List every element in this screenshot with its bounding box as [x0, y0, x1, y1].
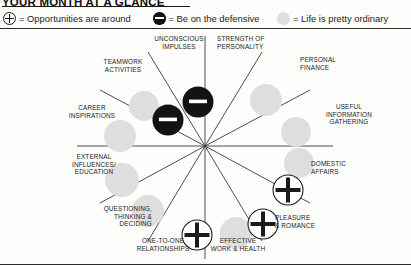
legend-item-defensive: = Be on the defensive — [153, 12, 259, 25]
legend-item-opportunities: = Opportunities are around — [3, 12, 131, 25]
opportunity-pleasure-and-romance — [248, 209, 278, 239]
filled-circle-bar-icon — [153, 12, 166, 25]
sector-label-effective-work-and-health: EFFECTIVE WORK & HEALTH — [203, 237, 273, 252]
legend-label-opportunities: = Opportunities are around — [19, 13, 131, 24]
grey-disc-icon — [277, 12, 290, 25]
sector-label-personal-finance: PERSONAL FINANCE — [300, 56, 364, 71]
disc-career-inspirations — [104, 120, 136, 152]
circled-plus-icon — [3, 12, 16, 25]
sector-label-strength-of-personality: STRENGTH OF PERSONALITY — [217, 35, 283, 50]
sector-label-pleasure-and-romance: PLEASURE & ROMANCE — [275, 214, 341, 229]
month-at-a-glance-wheel: TEAMWORK ACTIVITIES UNCONSCIOUS IMPULSES… — [0, 28, 411, 265]
legend-item-ordinary: = Life is pretty ordinary — [277, 12, 388, 25]
legend-label-ordinary: = Life is pretty ordinary — [293, 13, 388, 24]
disc-strength-of-personality — [250, 84, 282, 116]
title-bar: YOUR MONTH AT A GLANCE — [2, 0, 202, 9]
title-underline — [2, 6, 190, 7]
defensive-symbols — [153, 87, 214, 136]
disc-personal-finance — [281, 117, 311, 147]
defensive-unconscious-impulses — [183, 87, 214, 118]
sector-label-career-inspirations: CAREER INSPIRATIONS — [58, 104, 126, 119]
legend-label-defensive: = Be on the defensive — [169, 13, 260, 24]
sector-label-questioning-thinking-deciding: QUESTIONING, THINKING & DECIDING — [86, 205, 152, 228]
legend: = Opportunities are around = Be on the d… — [0, 11, 411, 28]
defensive-teamwork-adjacent — [153, 105, 184, 136]
sector-label-useful-information-gathering: USEFUL INFORMATION GATHERING — [312, 103, 386, 126]
sector-label-domestic-affairs: DOMESTIC AFFAIRS — [311, 160, 375, 175]
sector-label-unconscious-impulses: UNCONSCIOUS IMPULSES — [148, 35, 210, 50]
disc-useful-information-gathering — [284, 148, 314, 178]
opportunity-domestic-affairs — [273, 175, 303, 205]
sector-label-one-to-one-relationships: ONE-TO-ONE RELATIONSHIPS — [128, 237, 198, 252]
page-title: YOUR MONTH AT A GLANCE — [2, 0, 202, 9]
sector-label-external-influences-education: EXTERNAL INFLUENCES/ EDUCATION — [60, 153, 128, 176]
sector-label-teamwork-activities: TEAMWORK ACTIVITIES — [92, 58, 154, 73]
